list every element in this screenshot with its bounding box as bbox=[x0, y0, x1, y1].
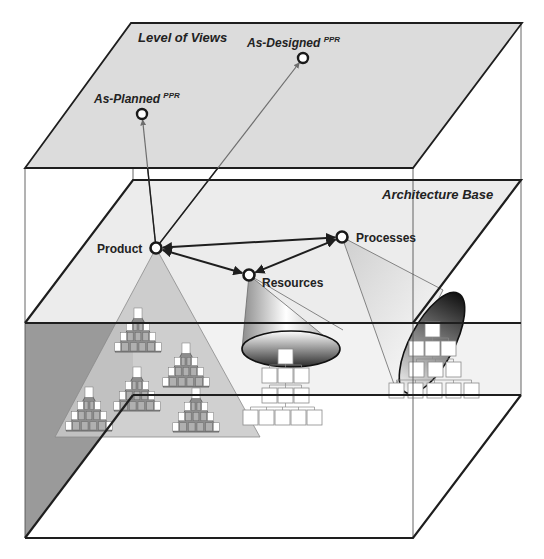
resources-org-box bbox=[278, 368, 293, 383]
plane-label-architecture-base: Architecture Base bbox=[381, 187, 493, 202]
processes-org-box bbox=[441, 341, 456, 356]
resources-org-box bbox=[291, 410, 306, 425]
node-label-resources: Resources bbox=[262, 276, 324, 290]
node-label-product: Product bbox=[97, 242, 142, 256]
resources-org-box bbox=[294, 368, 309, 383]
node-as-designed bbox=[298, 53, 308, 63]
node-processes bbox=[337, 232, 348, 243]
resources-org-box bbox=[307, 410, 322, 425]
processes-org-box bbox=[428, 362, 443, 377]
processes-org-box bbox=[446, 362, 461, 377]
resources-org-box bbox=[262, 368, 277, 383]
plane-label-level-of-views: Level of Views bbox=[138, 30, 227, 45]
resources-org-box bbox=[278, 349, 293, 364]
ppr-architecture-diagram: Level of Views Architecture Base As-Plan… bbox=[0, 0, 544, 559]
node-resources bbox=[244, 270, 255, 281]
processes-org-box bbox=[425, 322, 440, 337]
node-as-planned bbox=[137, 109, 147, 119]
resources-org-box bbox=[275, 410, 290, 425]
processes-org-box bbox=[409, 341, 424, 356]
resources-org-box bbox=[243, 410, 258, 425]
processes-org-box bbox=[425, 341, 440, 356]
processes-org-box bbox=[409, 362, 424, 377]
resources-org-box bbox=[259, 410, 274, 425]
node-product bbox=[151, 243, 162, 254]
node-label-processes: Processes bbox=[356, 231, 416, 245]
